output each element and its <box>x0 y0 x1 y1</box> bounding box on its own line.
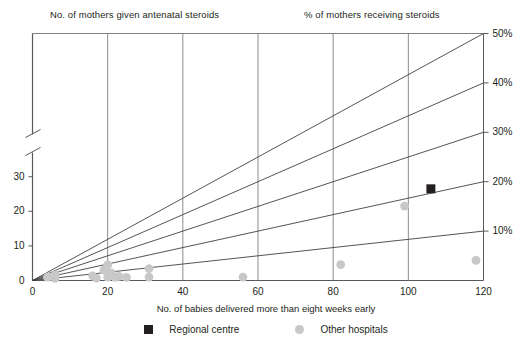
data-point-other-hospital <box>122 273 131 282</box>
legend-marker-square-icon <box>144 325 153 334</box>
data-point-other-hospital <box>472 256 481 265</box>
x-axis-label: No. of babies delivered more than eight … <box>0 303 532 314</box>
data-point-other-hospital <box>92 274 101 283</box>
data-point-other-hospital <box>400 202 409 211</box>
right-axis-label: 40% <box>493 77 513 88</box>
legend-label-regional-centre: Regional centre <box>169 324 239 335</box>
right-axis-label: 20% <box>493 176 513 187</box>
data-point-other-hospital <box>43 273 52 282</box>
right-axis-label: 50% <box>493 28 513 39</box>
y-tick-label: 0 <box>0 275 25 286</box>
x-tick-label: 40 <box>163 286 203 297</box>
data-point-other-hospital <box>336 260 345 269</box>
data-point-other-hospital <box>51 271 60 280</box>
data-point-other-hospital <box>115 272 124 281</box>
chart-container: No. of mothers given antenatal steroids … <box>0 0 532 348</box>
chart-legend: Regional centre Other hospitals <box>0 324 532 335</box>
legend-item-regional-centre: Regional centre <box>144 324 239 335</box>
x-tick-label: 60 <box>238 286 278 297</box>
x-tick-label: 80 <box>313 286 353 297</box>
data-point-other-hospital <box>145 273 154 282</box>
legend-item-other-hospitals: Other hospitals <box>295 324 387 335</box>
x-tick-label: 120 <box>464 286 504 297</box>
data-point-regional-centre <box>426 184 435 193</box>
legend-marker-circle-icon <box>295 325 304 334</box>
right-axis-label: 30% <box>493 126 513 137</box>
y-tick-label: 30 <box>0 171 25 182</box>
x-tick-label: 0 <box>13 286 53 297</box>
data-point-other-hospital <box>103 261 112 270</box>
y-tick-label: 20 <box>0 205 25 216</box>
x-tick-label: 100 <box>388 286 428 297</box>
y-tick-label: 10 <box>0 240 25 251</box>
data-point-other-hospital <box>145 264 154 273</box>
data-point-other-hospital <box>239 273 248 282</box>
right-axis-label: 10% <box>493 225 513 236</box>
x-tick-label: 20 <box>88 286 128 297</box>
legend-label-other-hospitals: Other hospitals <box>320 324 387 335</box>
